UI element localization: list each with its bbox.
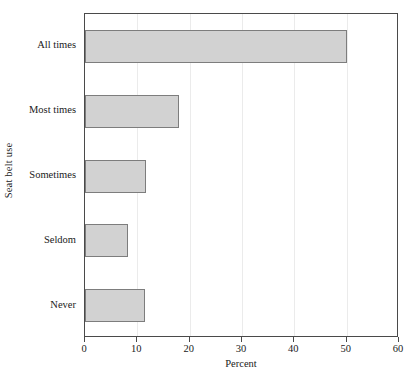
y-tick-label: Sometimes xyxy=(14,169,76,181)
bar-chart: Seat belt use All timesMost timesSometim… xyxy=(0,0,418,388)
y-tick-label: All times xyxy=(14,39,76,51)
y-tick-label: Seldom xyxy=(14,234,76,246)
x-axis-title: Percent xyxy=(84,358,398,369)
gridline xyxy=(347,14,348,336)
y-tick-label: Most times xyxy=(14,104,76,116)
y-tick-labels: All timesMost timesSometimesSeldomNever xyxy=(18,13,80,337)
bar xyxy=(85,30,347,63)
x-tick-mark xyxy=(136,337,137,342)
x-tick-mark xyxy=(189,337,190,342)
bar xyxy=(85,95,179,128)
x-tick-mark xyxy=(84,337,85,342)
x-tick-mark xyxy=(241,337,242,342)
x-tick-mark xyxy=(293,337,294,342)
x-tick-label: 30 xyxy=(236,343,247,354)
x-tick-label: 10 xyxy=(131,343,142,354)
bar xyxy=(85,289,145,322)
x-tick-label: 40 xyxy=(288,343,299,354)
y-tick-label: Never xyxy=(14,299,76,311)
x-axis-title-text: Percent xyxy=(225,358,257,369)
x-tick-label: 0 xyxy=(81,343,86,354)
x-tick-label: 50 xyxy=(340,343,351,354)
plot-area xyxy=(84,13,398,337)
y-axis-title-text: Seat belt use xyxy=(4,142,15,198)
bar xyxy=(85,160,146,193)
x-tick-mark xyxy=(346,337,347,342)
bar xyxy=(85,224,128,257)
x-tick-label: 60 xyxy=(393,343,404,354)
x-tick-label: 20 xyxy=(183,343,194,354)
x-tick-mark xyxy=(398,337,399,342)
